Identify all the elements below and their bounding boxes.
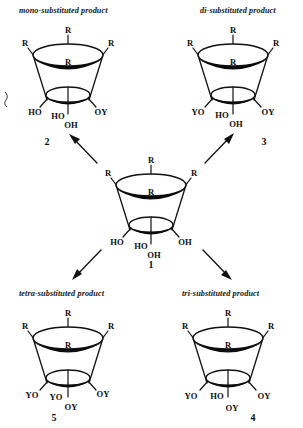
caption-tri-substituted: tri-substituted product <box>182 289 260 298</box>
bond-lower-right <box>88 381 96 390</box>
label-lower-inner-left: HO <box>215 110 229 120</box>
bond-lower-left <box>200 381 208 390</box>
compound-number-4: 4 <box>251 412 256 423</box>
label-lower-inner-right: OY <box>226 403 240 413</box>
arrow-to-tri <box>203 250 232 280</box>
label-R-upper-back: R <box>230 25 237 35</box>
label-R-upper-right: R <box>108 38 115 48</box>
bond-lower-right <box>253 98 261 107</box>
bond-lower-left <box>40 98 48 107</box>
label-R-upper-front: R <box>225 340 232 350</box>
label-lower-right: OH <box>178 237 192 247</box>
label-lower-right: OY <box>95 107 109 117</box>
label-lower-inner-left: YO <box>50 392 63 402</box>
label-lower-left: HO <box>110 237 124 247</box>
label-lower-left: HO <box>28 107 42 117</box>
label-R-upper-left: R <box>187 38 194 48</box>
caption-tetra-substituted: tetra-substituted product <box>19 289 105 298</box>
arrow-to-mono <box>69 134 97 163</box>
label-lower-inner-right: OH <box>229 119 243 129</box>
label-lower-inner-left: HO <box>51 111 65 121</box>
label-R-upper-left: R <box>182 321 189 331</box>
label-R-upper-right: R <box>268 321 275 331</box>
label-lower-left: YO <box>185 391 198 401</box>
structure-parent-calixarene: R R R R HO HO OH OH <box>105 155 198 260</box>
bond-lower-right <box>88 98 96 107</box>
bond-lower-left <box>40 381 48 390</box>
structure-di-substituted: R R R R YO HO OH OY <box>187 25 280 129</box>
caption-mono-substituted: mono-substituted product <box>19 6 108 15</box>
label-R-upper-back: R <box>65 308 72 318</box>
label-R-upper-left: R <box>105 168 112 178</box>
label-lower-right: OY <box>258 391 272 401</box>
label-R-upper-right: R <box>191 168 198 178</box>
reaction-scheme-diagram: mono-substituted product di-substituted … <box>0 0 303 428</box>
bond-lower-left <box>205 98 213 107</box>
compound-number-1: 1 <box>149 259 154 270</box>
label-R-upper-left: R <box>22 38 29 48</box>
label-R-upper-front: R <box>65 57 72 67</box>
label-lower-left: YO <box>192 107 205 117</box>
label-lower-right: OY <box>97 389 111 399</box>
compound-number-3: 3 <box>262 136 267 147</box>
label-R-upper-back: R <box>65 25 72 35</box>
compound-number-2: 2 <box>45 136 50 147</box>
label-lower-inner-right: OH <box>64 120 78 130</box>
label-R-upper-left: R <box>22 321 29 331</box>
label-R-upper-right: R <box>273 38 280 48</box>
squiggle-mark <box>5 92 8 107</box>
label-R-upper-front: R <box>148 187 155 197</box>
label-lower-inner-right: OY <box>65 402 79 412</box>
bond-lower-right <box>248 381 256 390</box>
label-R-upper-back: R <box>225 308 232 318</box>
arrow-to-tetra <box>72 250 101 280</box>
structure-tri-substituted: R R R R YO HO OY OY <box>182 308 275 413</box>
label-lower-inner-left: HO <box>134 241 148 251</box>
label-R-upper-back: R <box>148 155 155 165</box>
structure-tetra-substituted: R R R R YO YO OY OY <box>22 308 115 412</box>
label-lower-inner-left: HO <box>210 391 224 401</box>
label-lower-right: OY <box>262 107 276 117</box>
caption-di-substituted: di-substituted product <box>200 6 276 15</box>
label-lower-left: YO <box>26 390 39 400</box>
compound-number-5: 5 <box>52 412 57 423</box>
label-R-upper-front: R <box>65 340 72 350</box>
structure-mono-substituted: R R R R HO HO OH OY <box>22 25 115 130</box>
bond-lower-left <box>123 228 131 237</box>
label-R-upper-front: R <box>230 57 237 67</box>
arrow-to-di <box>205 133 234 163</box>
label-R-upper-right: R <box>108 321 115 331</box>
bond-lower-right <box>171 228 179 237</box>
